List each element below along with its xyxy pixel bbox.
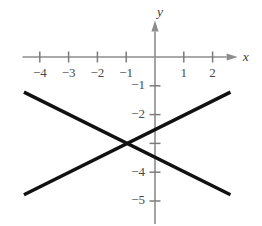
y-axis-label: y (155, 4, 163, 19)
axes-group (23, 20, 238, 224)
x-axis-arrowhead (227, 53, 238, 60)
y-tick-label: −2 (131, 106, 145, 121)
plotted-lines (24, 92, 230, 195)
x-tick-label: −4 (33, 65, 47, 80)
graph-figure: −4−3−2−112 −1−2−4−5 x y (0, 0, 262, 226)
x-axis-label: x (242, 49, 249, 64)
x-axis-tick-labels: −4−3−2−112 (33, 65, 216, 80)
y-tick-label: −4 (131, 164, 145, 179)
x-tick-label: 1 (181, 65, 188, 80)
x-tick-label: 2 (209, 65, 216, 80)
x-tick-label: −3 (62, 65, 76, 80)
coordinate-plane-svg: −4−3−2−112 −1−2−4−5 x y (0, 0, 262, 226)
y-axis-arrowhead (151, 20, 158, 31)
x-tick-label: −2 (90, 65, 104, 80)
y-tick-label: −5 (131, 192, 145, 207)
y-axis-tick-labels: −1−2−4−5 (131, 77, 145, 207)
y-tick-label: −1 (131, 77, 145, 92)
